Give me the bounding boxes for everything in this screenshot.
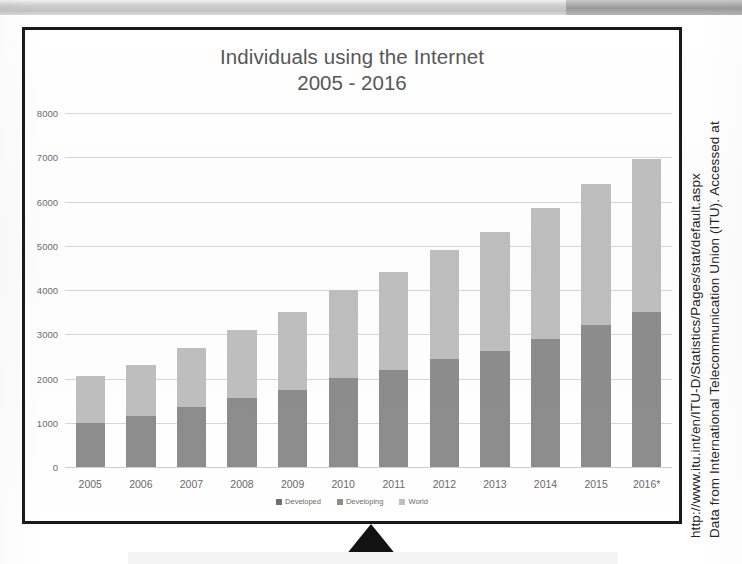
bar-segment-developing[interactable]	[581, 325, 610, 467]
y-axis-tick-label: 8000	[37, 108, 58, 119]
bar-group[interactable]: 2006	[116, 113, 167, 467]
bar-segment-developing[interactable]	[76, 423, 105, 467]
bar-stack[interactable]	[430, 250, 459, 467]
bar-stack[interactable]	[379, 272, 408, 467]
legend-item-world[interactable]: World	[399, 497, 427, 506]
bar-segment-world[interactable]	[379, 272, 408, 369]
x-axis-tick-label: 2011	[382, 478, 405, 490]
source-note-line-1: Data from International Telecommunicatio…	[707, 121, 722, 538]
y-axis-tick-label: 4000	[37, 285, 58, 296]
x-axis-tick-label: 2014	[534, 478, 557, 490]
x-axis-tick-label: 2015	[584, 478, 607, 490]
slide-canvas: Individuals using the Internet 2005 - 20…	[0, 0, 742, 564]
chart-title: Individuals using the Internet	[25, 44, 679, 70]
bar-segment-world[interactable]	[177, 348, 206, 408]
legend-swatch-icon	[276, 499, 282, 505]
bar-segment-developing[interactable]	[379, 370, 408, 467]
x-axis-tick-label: 2013	[483, 478, 506, 490]
chart-subtitle: 2005 - 2016	[25, 70, 679, 96]
bar-stack[interactable]	[227, 330, 256, 467]
bar-segment-developing[interactable]	[329, 378, 358, 467]
legend-item-developing[interactable]: Developing	[337, 497, 384, 506]
bar-segment-world[interactable]	[227, 330, 256, 399]
bar-group[interactable]: 2009	[267, 113, 318, 467]
x-axis-tick-label: 2007	[180, 478, 203, 490]
bar-stack[interactable]	[126, 365, 155, 467]
bar-group[interactable]: 2012	[419, 113, 470, 467]
bar-segment-developing[interactable]	[177, 407, 206, 467]
x-axis-tick-label: 2005	[79, 478, 102, 490]
bar-group[interactable]: 2010	[318, 113, 369, 467]
bar-segment-world[interactable]	[278, 312, 307, 389]
bar-segment-world[interactable]	[76, 376, 105, 422]
x-axis-tick-label: 2010	[331, 478, 354, 490]
bar-segment-developing[interactable]	[430, 359, 459, 467]
y-axis-tick-label: 3000	[37, 329, 58, 340]
y-axis-tick-label: 1000	[37, 417, 58, 428]
bar-segment-world[interactable]	[531, 208, 560, 339]
x-axis-tick-label: 2012	[433, 478, 456, 490]
y-axis-tick-label: 5000	[37, 240, 58, 251]
chart-title-block: Individuals using the Internet 2005 - 20…	[25, 44, 679, 96]
bar-group[interactable]: 2016*	[621, 113, 672, 467]
bar-segment-developing[interactable]	[531, 339, 560, 467]
bar-group[interactable]: 2007	[166, 113, 217, 467]
x-axis-tick-label: 2016*	[633, 478, 660, 490]
x-axis-tick-label: 2008	[230, 478, 253, 490]
source-note-line-2: http://www.itu.int/en/ITU-D/Statistics/P…	[688, 173, 703, 538]
y-axis-tick-label: 0	[53, 462, 58, 473]
legend-label: World	[408, 497, 427, 506]
x-axis-tick-label: 2009	[281, 478, 304, 490]
chart-frame: Individuals using the Internet 2005 - 20…	[22, 27, 682, 524]
bar-group[interactable]: 2014	[520, 113, 571, 467]
bar-segment-world[interactable]	[480, 232, 509, 350]
y-axis-tick-label: 2000	[37, 373, 58, 384]
bar-segment-developing[interactable]	[480, 351, 509, 467]
legend-label: Developing	[346, 497, 384, 506]
bar-group[interactable]: 2013	[470, 113, 521, 467]
x-axis-baseline	[65, 467, 672, 468]
bar-group[interactable]: 2005	[65, 113, 116, 467]
bar-segment-world[interactable]	[126, 365, 155, 416]
bar-stack[interactable]	[278, 312, 307, 467]
legend-item-developed[interactable]: Developed	[276, 497, 321, 506]
bar-segment-developing[interactable]	[126, 416, 155, 467]
bar-stack[interactable]	[632, 159, 661, 467]
bar-stack[interactable]	[581, 184, 610, 467]
bar-stack[interactable]	[177, 348, 206, 467]
bar-segment-world[interactable]	[581, 184, 610, 326]
bar-stack[interactable]	[329, 290, 358, 467]
plot-area: 010002000300040005000600070008000 200520…	[65, 113, 672, 467]
bar-group[interactable]: 2011	[368, 113, 419, 467]
source-note: Data from International Telecommunicatio…	[686, 18, 738, 538]
y-axis-tick-label: 6000	[37, 196, 58, 207]
bar-segment-world[interactable]	[430, 250, 459, 359]
bar-segment-developing[interactable]	[227, 398, 256, 467]
x-axis-tick-label: 2006	[129, 478, 152, 490]
legend-label: Developed	[285, 497, 321, 506]
bar-group[interactable]: 2008	[217, 113, 268, 467]
bar-stack[interactable]	[531, 208, 560, 467]
bar-stack[interactable]	[76, 376, 105, 467]
bar-stack[interactable]	[480, 232, 509, 467]
bars-group: 2005200620072008200920102011201220132014…	[65, 113, 672, 467]
slide-top-band-shadow	[566, 0, 742, 15]
legend-swatch-icon	[399, 499, 405, 505]
bar-segment-world[interactable]	[632, 159, 661, 312]
bar-segment-developing[interactable]	[278, 390, 307, 467]
chart-legend: DevelopedDevelopingWorld	[25, 497, 679, 506]
bar-group[interactable]: 2015	[571, 113, 622, 467]
legend-swatch-icon	[337, 499, 343, 505]
bottom-strip	[128, 552, 618, 564]
bar-segment-developing[interactable]	[632, 312, 661, 467]
y-axis-tick-label: 7000	[37, 152, 58, 163]
bar-segment-world[interactable]	[329, 290, 358, 378]
